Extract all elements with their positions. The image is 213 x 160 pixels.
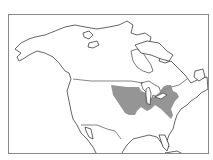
- map-frame: Central and eastern United States into s…: [8, 14, 209, 154]
- north-america-map: [9, 15, 209, 154]
- caribbean-island: [165, 151, 183, 154]
